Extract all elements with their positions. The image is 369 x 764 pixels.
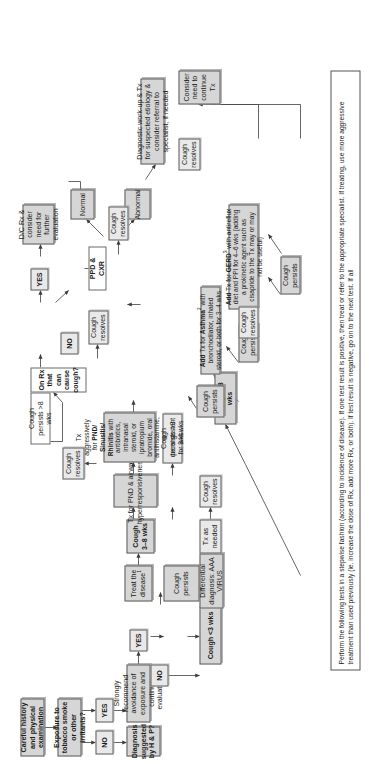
node-on-rx-yes[interactable]: YES — [30, 268, 48, 290]
node-cough-lt3[interactable]: Cough <3 wks — [199, 606, 221, 664]
node-cough-persists-gt8-label: Cough persists >8 wks — [27, 395, 53, 441]
node-cough-persists-a[interactable]: Cough persists — [163, 565, 199, 601]
node-cough-persists-d[interactable]: Cough persists — [280, 256, 300, 294]
node-cough-resolves-5-label: Cough resolves — [109, 209, 126, 237]
node-ppd-cxr-label: PPD & CXR — [88, 249, 105, 287]
node-add-tx-asthma[interactable]: Add Tx for Asthma2 with bronchodilator, … — [200, 286, 220, 374]
node-footnote: Perform the following tests in a stepwis… — [330, 70, 360, 670]
node-cough-persists-d-label: Cough persists — [281, 259, 298, 291]
node-cough-resolves-1-label: Cough resolves — [201, 478, 218, 504]
node-differential-diagnosis-label: Differential diagnosis: AAA VIRUS — [198, 556, 224, 605]
node-on-rx-no-label: NO — [65, 338, 74, 349]
node-dx-yes[interactable]: YES — [129, 629, 147, 651]
node-cough-resolves-6[interactable]: Cough resolves — [88, 310, 108, 344]
node-exposure-yes[interactable]: YES — [95, 698, 113, 722]
node-diagnosis-question-label: Diagnosis suggested by H & P? — [130, 723, 156, 758]
node-cough-persists-b-label: Cough persists — [201, 388, 218, 414]
node-avoidance[interactable]: Strongly recommend avoidance of exposure… — [126, 664, 150, 722]
node-dx-no[interactable]: NO — [150, 664, 168, 686]
node-diagnostic-workup-label: Diagnostic work-up & Tx for suspected et… — [135, 81, 169, 161]
node-cough-resolves-4[interactable]: Cough resolves — [178, 138, 200, 170]
node-consider-continue-tx-label: Consider need to continue Tx — [182, 73, 216, 101]
node-treat-disease-label: Treat the disease1 — [129, 568, 146, 598]
node-abnormal-label: Abnormal — [133, 189, 142, 219]
node-on-rx-yes-label: YES — [35, 272, 44, 286]
node-tx-aggressive-label: Tx aggressively for PND/ Sinusitis/ Rhin… — [74, 415, 183, 459]
node-cough-resolves-4-label: Cough resolves — [180, 141, 197, 167]
footnote-marker-1: 1 — [136, 569, 142, 572]
node-dc-rx[interactable]: D/C Rx & consider need for further evalu… — [22, 204, 54, 244]
node-diagnosis-question[interactable]: Diagnosis suggested by H & P? — [126, 726, 160, 756]
node-history[interactable]: Careful history and physical examination — [20, 698, 44, 756]
node-differential-diagnosis[interactable]: Differential diagnosis: AAA VIRUS — [199, 553, 223, 608]
node-cough-persists-a-label: Cough persists — [172, 568, 189, 598]
node-exposure-label: Exposure to tobacco smoke or other irrit… — [52, 701, 86, 753]
node-on-rx-question-label: On Rx that can cause cough? — [37, 367, 80, 392]
node-ppd-cxr[interactable]: PPD & CXR — [88, 246, 106, 290]
flowchart-rotation-wrapper: Careful history and physical examination… — [0, 0, 369, 764]
node-exposure-no-label: NO — [100, 737, 109, 748]
node-consider-continue-tx[interactable]: Consider need to continue Tx — [178, 70, 220, 104]
node-normal-label: Normal — [78, 193, 87, 216]
node-cough-resolves-6-label: Cough resolves — [89, 313, 106, 341]
flowchart-canvas: Careful history and physical examination… — [0, 0, 369, 764]
node-diagnostic-workup[interactable]: Diagnostic work-up & Tx for suspected et… — [140, 78, 164, 164]
node-on-rx-no[interactable]: NO — [60, 332, 78, 354]
node-cough-3-8-label: Cough 3–8 wks — [131, 522, 148, 550]
node-exposure-question[interactable]: Exposure to tobacco smoke or other irrit… — [57, 698, 81, 756]
node-tx-aggressive[interactable]: Tx aggressively for PND/ Sinusitis/ Rhin… — [103, 412, 155, 462]
node-cough-resolves-3[interactable]: Cough resolves — [238, 306, 258, 338]
node-tx-as-needed-label: Tx as needed — [201, 522, 218, 550]
node-cough-resolves-1[interactable]: Cough resolves — [199, 475, 221, 507]
node-cough-persists-b[interactable]: Cough persists — [196, 385, 224, 417]
node-cough-resolves-3-label: Cough resolves — [239, 309, 256, 335]
node-add-tx-gerd-label: Add Tx for GERD3 with antireflux diet an… — [224, 207, 263, 306]
node-tx-as-needed[interactable]: Tx as needed — [199, 519, 221, 553]
node-tx-pnd-label: Tx for PND & airway hyperresponsiveness — [126, 457, 143, 524]
node-on-rx-question[interactable]: On Rx that can cause cough? — [30, 367, 86, 392]
node-exposure-no[interactable]: NO — [95, 730, 113, 754]
node-tx-pnd[interactable]: Tx for PND & airway hyperresponsiveness — [113, 474, 157, 507]
node-history-label: Careful history and physical examination — [19, 701, 45, 753]
node-cough-lt3-label: Cough <3 wks — [206, 611, 215, 659]
node-exposure-yes-label: YES — [100, 703, 109, 717]
node-dx-yes-label: YES — [134, 633, 143, 647]
node-add-tx-gerd[interactable]: Add Tx for GERD3 with antireflux diet an… — [228, 204, 258, 309]
node-normal[interactable]: Normal — [70, 189, 94, 219]
node-dc-rx-label: D/C Rx & consider need for further evalu… — [17, 207, 60, 241]
node-cough-resolves-5[interactable]: Cough resolves — [108, 206, 128, 240]
node-treat-disease[interactable]: Treat the disease1 — [124, 565, 152, 601]
node-cough-persists-gt8[interactable]: Cough persists >8 wks — [30, 392, 50, 444]
node-dx-no-label: NO — [155, 670, 164, 681]
node-footnote-label: Perform the following tests in a stepwis… — [336, 76, 355, 664]
node-add-tx-asthma-label: Add Tx for Asthma2 with bronchodilator, … — [198, 289, 221, 371]
